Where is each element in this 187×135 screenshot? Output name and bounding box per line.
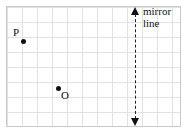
- mirror-line-label-row1: mirror: [143, 5, 171, 17]
- mirror-line-label-row2: line: [143, 17, 171, 29]
- mirror-line-label: mirror line: [143, 5, 171, 29]
- point-o-label: O: [61, 90, 69, 101]
- geometry-figure: P O mirror line: [0, 0, 187, 135]
- mirror-line-arrow-down-icon: [131, 118, 139, 126]
- point-p-label: P: [13, 27, 19, 38]
- mirror-line: [135, 14, 136, 119]
- point-p-dot: [21, 39, 26, 44]
